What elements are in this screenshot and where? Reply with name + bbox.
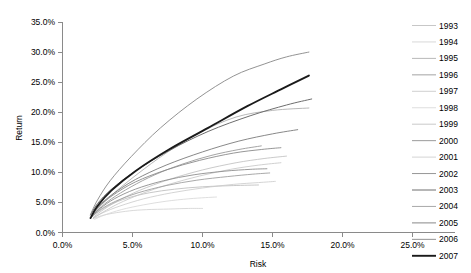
x-tick-label: 20.0% — [330, 240, 355, 250]
legend-label-1996[interactable]: 1996 — [439, 70, 458, 80]
y-tick-label: 35.0% — [31, 17, 56, 27]
y-tick-label: 10.0% — [31, 167, 56, 177]
legend-label-2007[interactable]: 2007 — [439, 251, 458, 261]
legend-label-1998[interactable]: 1998 — [439, 103, 458, 113]
chart-canvas: 0.0%5.0%10.0%15.0%20.0%25.0%30.0%35.0% 0… — [0, 0, 471, 273]
y-tick-label: 30.0% — [31, 47, 56, 57]
legend-label-1999[interactable]: 1999 — [439, 119, 458, 129]
risk-return-chart: 0.0%5.0%10.0%15.0%20.0%25.0%30.0%35.0% 0… — [0, 0, 471, 273]
legend-label-2001[interactable]: 2001 — [439, 152, 458, 162]
x-tick-label: 15.0% — [260, 240, 285, 250]
y-tick-label: 15.0% — [31, 137, 56, 147]
legend-label-1993[interactable]: 1993 — [439, 21, 458, 31]
y-tick-label: 25.0% — [31, 77, 56, 87]
x-tick-label: 5.0% — [123, 240, 143, 250]
legend-label-1995[interactable]: 1995 — [439, 53, 458, 63]
y-tick-label: 20.0% — [31, 107, 56, 117]
x-tick-label: 0.0% — [53, 240, 73, 250]
x-axis-title: Risk — [250, 259, 267, 269]
legend-label-2002[interactable]: 2002 — [439, 169, 458, 179]
legend-label-1994[interactable]: 1994 — [439, 37, 458, 47]
legend-label-2003[interactable]: 2003 — [439, 185, 458, 195]
y-axis-title: Return — [14, 115, 24, 141]
x-tick-label: 10.0% — [190, 240, 215, 250]
x-tick-label: 25.0% — [400, 240, 425, 250]
y-tick-label: 5.0% — [36, 197, 56, 207]
legend-label-2000[interactable]: 2000 — [439, 136, 458, 146]
legend-label-1997[interactable]: 1997 — [439, 86, 458, 96]
legend-label-2005[interactable]: 2005 — [439, 218, 458, 228]
y-tick-label: 0.0% — [36, 228, 56, 238]
legend-label-2004[interactable]: 2004 — [439, 201, 458, 211]
legend-label-2006[interactable]: 2006 — [439, 234, 458, 244]
